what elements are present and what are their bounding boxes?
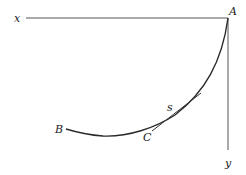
y-axis-label: y (224, 157, 232, 170)
point-b-label: B (54, 123, 63, 136)
x-axis-label: x (14, 12, 21, 25)
point-a-label: A (228, 5, 237, 18)
curve-path (66, 18, 228, 136)
curve-diagram: x A y B C s (0, 0, 246, 175)
point-c-label: C (143, 131, 152, 144)
tangent-line (152, 93, 201, 131)
arc-length-s-label: s (167, 101, 173, 114)
